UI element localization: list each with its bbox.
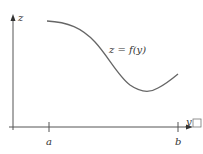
tick-label-a: a — [46, 136, 52, 147]
function-curve — [47, 21, 178, 91]
vertical-axis-label: z — [17, 12, 24, 23]
function-diagram: z y a b z = f(y) — [0, 0, 203, 154]
curve-label: z = f(y) — [108, 44, 146, 55]
horizontal-axis — [9, 125, 193, 130]
arrow-up-icon — [11, 14, 16, 21]
placeholder-box-icon — [193, 119, 201, 127]
tick-label-b: b — [175, 136, 181, 147]
vertical-axis — [11, 14, 16, 130]
horizontal-axis-label: y — [185, 116, 192, 127]
